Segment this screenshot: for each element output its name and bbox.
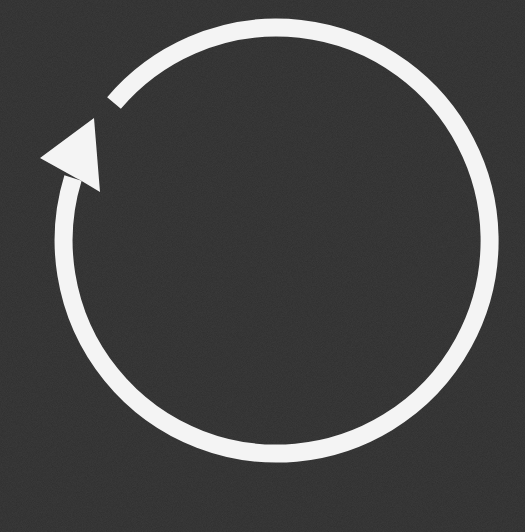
refresh-icon	[0, 0, 525, 532]
icon-canvas	[0, 0, 525, 532]
